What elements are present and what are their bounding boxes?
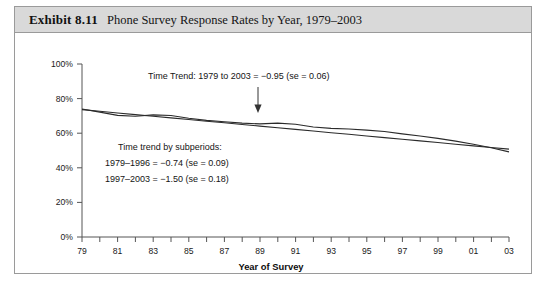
- y-tick-label-80: 80%: [56, 94, 74, 104]
- exhibit-title: Phone Survey Response Rates by Year, 197…: [107, 13, 362, 28]
- exhibit-header-band: Exhibit 8.11 Phone Survey Response Rates…: [15, 7, 531, 33]
- x-tick-label-99: 99: [433, 246, 443, 256]
- x-tick-label-83: 83: [148, 246, 158, 256]
- x-tick-label-95: 95: [362, 246, 372, 256]
- x-tick-label-85: 85: [184, 246, 194, 256]
- x-tick-label-91: 91: [291, 246, 301, 256]
- annotation-overall-trend: Time Trend: 1979 to 2003 = −0.95 (se = 0…: [148, 71, 330, 81]
- y-tick-label-20: 20%: [56, 197, 74, 207]
- y-tick-label-60: 60%: [56, 128, 74, 138]
- x-tick-label-87: 87: [220, 246, 230, 256]
- exhibit-label: Exhibit 8.11: [29, 12, 98, 28]
- x-tick-label-93: 93: [326, 246, 336, 256]
- x-axis-ticks: [82, 237, 509, 242]
- y-tick-label-40: 40%: [56, 163, 74, 173]
- x-tick-label-97: 97: [398, 246, 408, 256]
- annotation-subperiod-1: 1979–1996 = −0.74 (se = 0.09): [105, 158, 229, 168]
- x-axis-labels: 79 81 83 85 87 89 91 93 95 97 99 01 03: [77, 246, 514, 256]
- down-arrow-icon: [254, 87, 261, 113]
- x-tick-label-01: 01: [469, 246, 479, 256]
- chart-plot-area: 100% 80% 60% 40% 20% 0%: [15, 33, 531, 275]
- y-axis-ticks: 100% 80% 60% 40% 20% 0%: [51, 59, 82, 242]
- annotation-subperiod-2: 1997–2003 = −1.50 (se = 0.18): [105, 174, 229, 184]
- exhibit-figure: Exhibit 8.11 Phone Survey Response Rates…: [14, 6, 532, 274]
- y-tick-label-100: 100%: [51, 59, 73, 69]
- y-tick-label-0: 0%: [61, 232, 74, 242]
- x-tick-label-03: 03: [504, 246, 514, 256]
- x-axis-title: Year of Survey: [238, 261, 304, 272]
- line-chart-svg: 100% 80% 60% 40% 20% 0%: [15, 33, 531, 275]
- x-tick-label-81: 81: [113, 246, 123, 256]
- x-tick-label-79: 79: [77, 246, 87, 256]
- x-tick-label-89: 89: [255, 246, 265, 256]
- annotation-subperiod-heading: Time trend by subperiods:: [118, 142, 222, 152]
